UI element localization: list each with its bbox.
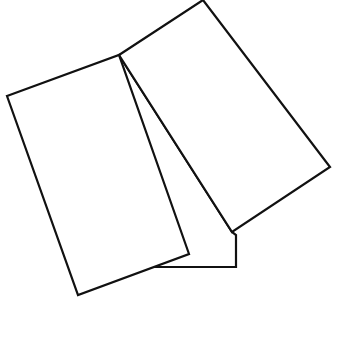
overlapping-rectangles-diagram: [0, 0, 338, 352]
